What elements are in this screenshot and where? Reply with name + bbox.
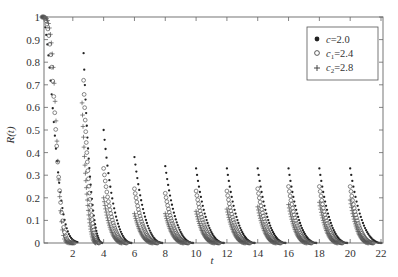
x-tick-label: 6 xyxy=(132,247,138,259)
x-tick-label: 22 xyxy=(376,247,387,259)
y-tick-label: 0.2 xyxy=(26,192,40,204)
y-tick-label: 0.6 xyxy=(26,101,40,113)
x-tick-label: 14 xyxy=(252,247,264,259)
y-tick-label: 0.5 xyxy=(26,124,40,136)
x-tick-label: 16 xyxy=(283,247,295,259)
reliability-chart: 246810121416182022 00.10.20.30.40.50.60.… xyxy=(0,0,398,277)
x-tick-label: 18 xyxy=(314,247,326,259)
y-tick-label: 0.4 xyxy=(26,147,40,159)
legend: c=2.0 c1=2.4 c2=2.8 xyxy=(307,27,378,80)
y-tick-label: 1 xyxy=(35,11,41,23)
x-tick-label: 4 xyxy=(101,247,107,259)
y-tick-label: 0 xyxy=(35,237,41,249)
y-tick-label: 0.7 xyxy=(26,79,40,91)
y-tick-label: 0.8 xyxy=(26,56,40,68)
x-axis-label: t xyxy=(210,254,214,266)
svg-text:c=2.0: c=2.0 xyxy=(326,34,350,45)
y-tick-label: 0.3 xyxy=(26,169,40,181)
x-tick-label: 20 xyxy=(345,247,357,259)
y-tick-label: 0.9 xyxy=(26,34,40,46)
x-tick-label: 2 xyxy=(70,247,76,259)
legend-value: =2.8 xyxy=(334,62,353,73)
legend-value: =2.0 xyxy=(331,34,350,45)
filled-dot-icon xyxy=(315,37,320,42)
legend-value: =2.4 xyxy=(334,48,354,59)
x-tick-label: 12 xyxy=(221,247,232,259)
y-tick-label: 0.1 xyxy=(26,214,40,226)
x-tick-label: 8 xyxy=(163,247,169,259)
x-tick-label: 10 xyxy=(191,247,203,259)
y-axis-label: R(t) xyxy=(4,126,17,144)
